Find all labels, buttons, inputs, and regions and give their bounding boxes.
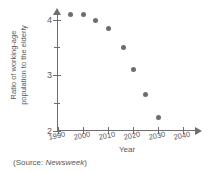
y-tick-label-4: 4 [38, 16, 52, 25]
y-axis-title-line-1: Ratio of working-age [9, 1, 19, 129]
y-tick-minor-2-5 [54, 103, 60, 104]
x-tick-label-2000: 2000 [73, 131, 91, 142]
x-tick-label-2010: 2010 [98, 131, 116, 142]
x-tick-label-2040: 2040 [173, 131, 191, 142]
y-tick-minor-3-5 [54, 47, 60, 48]
chart-figure: 4 3 2 1990 2000 2010 2020 2030 2040 Rati… [0, 0, 214, 172]
x-tick-label-2020: 2020 [123, 131, 141, 142]
x-axis-title: Year [57, 145, 197, 154]
source-prefix: (Source: [13, 158, 45, 167]
data-point [131, 67, 136, 72]
data-point [93, 18, 98, 23]
source-note: (Source: Newsweek) [13, 158, 87, 167]
y-axis-arrow-icon [53, 8, 61, 15]
y-axis-line [57, 14, 58, 131]
x-axis-arrow-icon [195, 127, 202, 135]
source-suffix: ) [84, 158, 87, 167]
data-point [143, 92, 148, 97]
x-tick-label-1990: 1990 [48, 131, 66, 142]
scatter-plot-area: 4 3 2 1990 2000 2010 2020 2030 2040 Rati… [0, 0, 214, 172]
y-axis-title: Ratio of working-age population to the e… [9, 1, 29, 129]
x-tick-label-2030: 2030 [148, 131, 166, 142]
data-point [156, 115, 161, 120]
y-tick-4 [53, 20, 61, 21]
data-point [81, 12, 86, 17]
y-axis-title-line-2: population to the elderly [19, 1, 29, 129]
data-point [121, 45, 126, 50]
data-point [106, 26, 111, 31]
data-point [68, 12, 73, 17]
y-tick-label-3: 3 [38, 71, 52, 80]
source-publication: Newsweek [45, 158, 84, 167]
y-tick-3 [53, 75, 61, 76]
